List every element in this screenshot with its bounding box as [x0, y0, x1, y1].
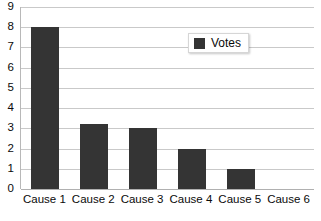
legend: Votes: [188, 33, 249, 53]
y-axis-tick-label: 8: [8, 21, 14, 33]
y-axis-tick-label: 0: [8, 183, 14, 195]
legend-label-votes: Votes: [211, 37, 241, 49]
y-axis-tick-label: 7: [8, 42, 14, 54]
x-axis-tick-label: Cause 2: [72, 194, 115, 206]
bar: [31, 27, 59, 189]
bars-series-votes: [21, 7, 314, 189]
y-axis-tick-label: 3: [8, 123, 14, 135]
y-axis-tick-label: 2: [8, 143, 14, 155]
bar: [129, 128, 157, 189]
x-axis-tick-label: Cause 5: [218, 194, 261, 206]
x-axis-tick-label: Cause 3: [121, 194, 164, 206]
legend-swatch-icon: [194, 38, 205, 49]
bar: [178, 149, 206, 189]
y-axis-tick-label: 1: [8, 163, 14, 175]
y-axis-tick-label: 9: [8, 1, 14, 13]
x-axis: Cause 1Cause 2Cause 3Cause 4Cause 5Cause…: [20, 194, 313, 214]
plot-area: [20, 7, 314, 189]
axis-baseline: [21, 189, 314, 190]
x-axis-tick-label: Cause 4: [169, 194, 212, 206]
y-axis-tick-label: 4: [8, 102, 14, 114]
x-axis-tick-label: Cause 6: [267, 194, 310, 206]
y-axis: 9876543210: [0, 0, 18, 192]
y-axis-tick-label: 5: [8, 82, 14, 94]
bar: [80, 124, 108, 189]
bar-chart: 9876543210 Votes Cause 1Cause 2Cause 3Ca…: [0, 0, 321, 221]
x-axis-tick-label: Cause 1: [23, 194, 66, 206]
bar: [227, 169, 255, 189]
y-axis-tick-label: 6: [8, 62, 14, 74]
